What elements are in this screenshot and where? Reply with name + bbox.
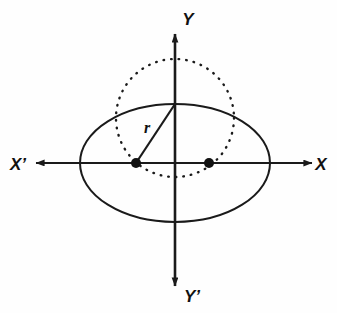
right-focus-point <box>204 158 214 168</box>
left-focus-point <box>131 158 141 168</box>
y-positive-axis-label: Y <box>182 10 195 29</box>
geometry-canvas: X X’ Y Y’ r <box>0 0 337 313</box>
geometry-figure: X X’ Y Y’ r <box>0 0 337 313</box>
x-positive-axis-label: X <box>314 155 328 174</box>
radius-label: r <box>144 119 151 136</box>
x-negative-axis-label: X’ <box>9 155 26 174</box>
radius-segment <box>136 104 175 163</box>
y-negative-axis-label: Y’ <box>184 287 200 306</box>
